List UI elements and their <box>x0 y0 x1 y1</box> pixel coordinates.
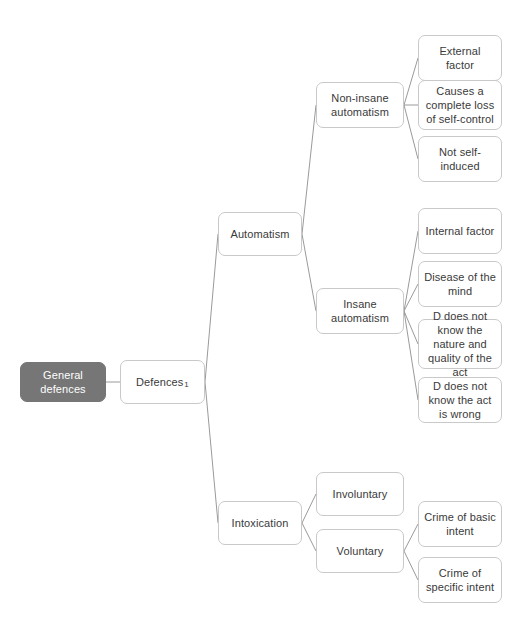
connector-voluntary-to-specific-intent <box>404 551 418 580</box>
connector-insane-to-act-is-wrong <box>404 311 418 400</box>
node-general-defences[interactable]: General defences <box>20 362 106 402</box>
connector-automatism-to-insane <box>302 234 316 311</box>
node-insane-automatism[interactable]: Insane automatism <box>316 288 404 334</box>
connector-insane-to-nature-quality <box>404 311 418 344</box>
node-involuntary-label: Involuntary <box>322 487 398 501</box>
node-intoxication-label: Intoxication <box>224 516 296 530</box>
node-complete-loss-of-self-control[interactable]: Causes a complete loss of self-control <box>418 80 502 130</box>
node-crime-of-basic-intent-label: Crime of basic intent <box>424 510 496 538</box>
node-internal-factor-label: Internal factor <box>424 224 496 238</box>
node-disease-of-the-mind[interactable]: Disease of the mind <box>418 261 502 307</box>
node-defences[interactable]: Defences1 <box>120 360 205 404</box>
node-general-defences-label: General defences <box>26 368 100 396</box>
node-non-insane-automatism-label: Non-insane automatism <box>322 91 398 119</box>
node-act-is-wrong-label: D does not know the act is wrong <box>424 379 496 421</box>
node-involuntary[interactable]: Involuntary <box>316 472 404 516</box>
connector-automatism-to-non-insane <box>302 105 316 234</box>
connector-voluntary-to-basic-intent <box>404 524 418 551</box>
connector-intoxication-to-involuntary <box>302 494 316 523</box>
connector-non-insane-to-external-factor <box>404 58 418 105</box>
node-crime-of-specific-intent-label: Crime of specific intent <box>424 566 496 594</box>
node-not-self-induced-label: Not self-induced <box>424 145 496 173</box>
node-insane-automatism-label: Insane automatism <box>322 297 398 325</box>
connector-non-insane-to-not-self-induced <box>404 105 418 159</box>
node-defences-marker: 1 <box>184 380 189 389</box>
node-voluntary-label: Voluntary <box>322 544 398 558</box>
node-not-self-induced[interactable]: Not self-induced <box>418 136 502 182</box>
node-external-factor[interactable]: External factor <box>418 35 502 81</box>
node-intoxication[interactable]: Intoxication <box>218 501 302 545</box>
node-crime-of-specific-intent[interactable]: Crime of specific intent <box>418 557 502 603</box>
node-defences-label: Defences1 <box>126 375 199 389</box>
connector-insane-to-internal-factor <box>404 231 418 311</box>
node-disease-of-the-mind-label: Disease of the mind <box>424 270 496 298</box>
node-voluntary[interactable]: Voluntary <box>316 529 404 573</box>
node-nature-and-quality-of-act-label: D does not know the nature and quality o… <box>424 309 496 379</box>
node-non-insane-automatism[interactable]: Non-insane automatism <box>316 82 404 128</box>
node-nature-and-quality-of-act[interactable]: D does not know the nature and quality o… <box>418 319 502 369</box>
node-internal-factor[interactable]: Internal factor <box>418 208 502 254</box>
connector-defences-to-automatism <box>205 234 218 382</box>
connector-insane-to-disease-of-mind <box>404 284 418 311</box>
connector-defences-to-intoxication <box>205 382 218 523</box>
connector-intoxication-to-voluntary <box>302 523 316 551</box>
node-act-is-wrong[interactable]: D does not know the act is wrong <box>418 377 502 423</box>
node-external-factor-label: External factor <box>424 44 496 72</box>
node-automatism[interactable]: Automatism <box>218 212 302 256</box>
node-crime-of-basic-intent[interactable]: Crime of basic intent <box>418 501 502 547</box>
node-complete-loss-of-self-control-label: Causes a complete loss of self-control <box>424 84 496 126</box>
mind-map-diagram: General defences Defences1 Automatism In… <box>0 0 530 633</box>
node-automatism-label: Automatism <box>224 227 296 241</box>
